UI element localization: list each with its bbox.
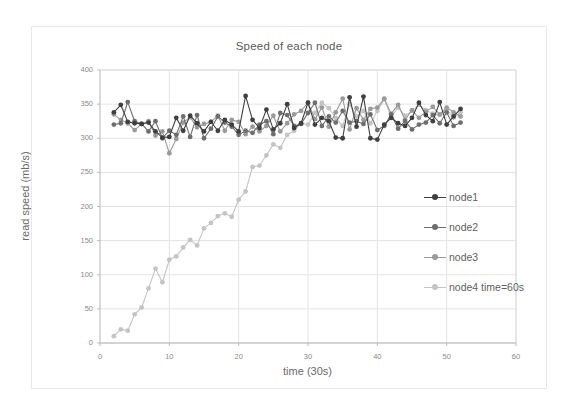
data-point bbox=[202, 136, 207, 141]
data-point bbox=[319, 100, 324, 105]
legend-item-4[interactable]: node4 time=60s bbox=[424, 272, 524, 302]
x-tick-label: 50 bbox=[435, 352, 459, 361]
data-point bbox=[410, 108, 415, 113]
data-point bbox=[347, 95, 352, 100]
data-point bbox=[299, 121, 304, 126]
data-point bbox=[347, 120, 352, 125]
data-point bbox=[146, 286, 151, 291]
data-point bbox=[271, 132, 276, 137]
data-point bbox=[195, 243, 200, 248]
data-point bbox=[423, 113, 428, 118]
data-point bbox=[396, 121, 401, 126]
data-point bbox=[285, 113, 290, 118]
legend-item-1[interactable]: node1 bbox=[424, 182, 524, 212]
data-point bbox=[257, 126, 262, 131]
x-tick-label: 0 bbox=[88, 352, 112, 361]
data-point bbox=[195, 121, 200, 126]
data-point bbox=[389, 115, 394, 120]
data-point bbox=[410, 127, 415, 132]
legend-item-2[interactable]: node2 bbox=[424, 212, 524, 242]
legend-item-3[interactable]: node3 bbox=[424, 242, 524, 272]
data-point bbox=[118, 327, 123, 332]
data-point bbox=[209, 126, 214, 131]
data-point bbox=[215, 128, 220, 133]
data-point bbox=[326, 106, 331, 111]
data-point bbox=[313, 100, 318, 105]
data-point bbox=[458, 107, 463, 112]
data-point bbox=[333, 120, 338, 125]
legend-marker-icon bbox=[424, 252, 446, 262]
data-point bbox=[243, 128, 248, 133]
data-point bbox=[444, 122, 449, 127]
data-point bbox=[125, 328, 130, 333]
data-point bbox=[202, 129, 207, 134]
data-point bbox=[118, 121, 123, 126]
data-point bbox=[132, 128, 137, 133]
data-point bbox=[382, 96, 387, 101]
data-point bbox=[181, 245, 186, 250]
data-point bbox=[319, 115, 324, 120]
x-tick-label: 40 bbox=[365, 352, 389, 361]
data-point bbox=[229, 117, 234, 122]
data-point bbox=[354, 124, 359, 129]
data-point bbox=[417, 122, 422, 127]
data-point bbox=[195, 113, 200, 118]
data-point bbox=[188, 134, 193, 139]
data-point bbox=[174, 137, 179, 142]
data-point bbox=[271, 127, 276, 132]
data-point bbox=[222, 117, 227, 122]
legend-label: node2 bbox=[449, 221, 478, 233]
data-point bbox=[444, 105, 449, 110]
data-point bbox=[264, 119, 269, 124]
data-point bbox=[285, 132, 290, 137]
data-point bbox=[167, 257, 172, 262]
data-point bbox=[132, 312, 137, 317]
data-point bbox=[111, 334, 116, 339]
data-point bbox=[382, 122, 387, 127]
data-point bbox=[264, 153, 269, 158]
data-point bbox=[236, 197, 241, 202]
data-point bbox=[278, 111, 283, 116]
x-tick-label: 20 bbox=[227, 352, 251, 361]
data-point bbox=[236, 129, 241, 134]
data-point bbox=[375, 128, 380, 133]
data-point bbox=[451, 114, 456, 119]
data-point bbox=[375, 105, 380, 110]
y-tick-label: 100 bbox=[67, 270, 93, 279]
legend-marker-icon bbox=[424, 222, 446, 232]
data-point bbox=[139, 305, 144, 310]
data-point bbox=[132, 121, 137, 126]
data-point bbox=[118, 102, 123, 107]
data-point bbox=[319, 124, 324, 129]
y-tick-label: 0 bbox=[67, 338, 93, 347]
data-point bbox=[250, 117, 255, 122]
data-point bbox=[437, 100, 442, 105]
data-point bbox=[153, 129, 158, 134]
data-point bbox=[243, 94, 248, 99]
data-point bbox=[410, 115, 415, 120]
data-point bbox=[347, 127, 352, 132]
data-point bbox=[396, 102, 401, 107]
data-point bbox=[125, 119, 130, 124]
data-point bbox=[160, 280, 165, 285]
data-point bbox=[340, 136, 345, 141]
data-point bbox=[264, 107, 269, 112]
data-point bbox=[250, 124, 255, 129]
legend-marker-icon bbox=[424, 282, 446, 292]
data-point bbox=[111, 122, 116, 127]
x-tick-label: 60 bbox=[504, 352, 528, 361]
chart-legend: node1node2node3node4 time=60s bbox=[424, 182, 524, 302]
data-point bbox=[153, 119, 158, 124]
data-point bbox=[257, 163, 262, 168]
data-point bbox=[215, 214, 220, 219]
data-point bbox=[188, 238, 193, 243]
chart-screenshot: Speed of each node read speed (mb/s) tim… bbox=[0, 0, 578, 411]
data-point bbox=[285, 102, 290, 107]
data-point bbox=[146, 120, 151, 125]
data-point bbox=[333, 135, 338, 140]
data-point bbox=[368, 112, 373, 117]
series-node4 bbox=[111, 97, 462, 339]
data-point bbox=[430, 119, 435, 124]
data-point bbox=[361, 94, 366, 99]
legend-label: node4 time=60s bbox=[449, 281, 524, 293]
